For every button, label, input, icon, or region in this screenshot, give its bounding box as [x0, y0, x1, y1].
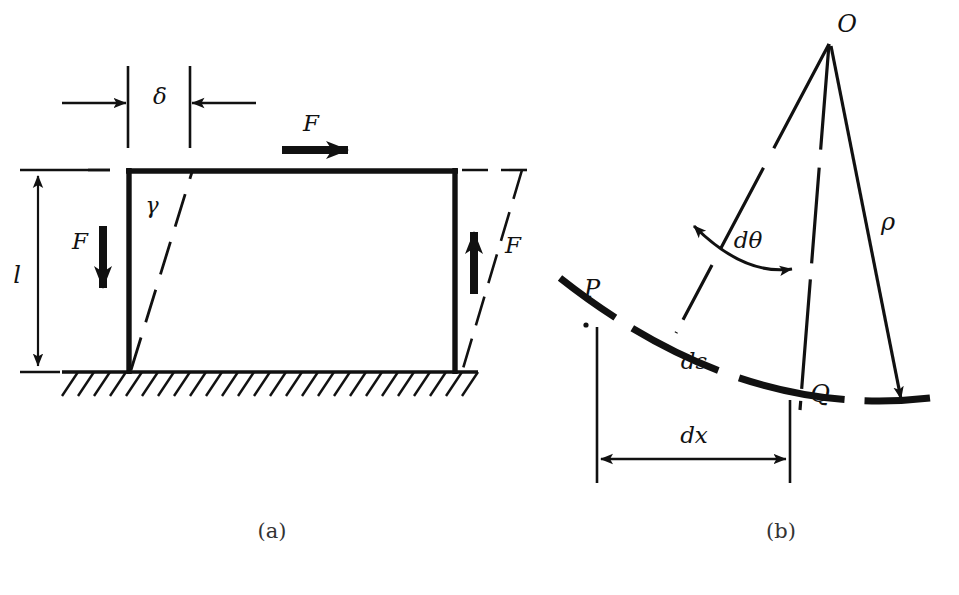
length-label: l [13, 261, 21, 289]
ground-hatching [62, 372, 478, 396]
panel-a-group: δ l γ F F F [13, 66, 530, 396]
caption-b: (b) [766, 519, 796, 543]
figure-container: δ l γ F F F [0, 0, 959, 595]
radius-line-left [676, 44, 829, 333]
gamma-label: γ [145, 193, 159, 218]
rho-label: ρ [880, 208, 895, 236]
ds-label: ds [681, 348, 708, 374]
point-q-label: Q [810, 380, 830, 408]
radius-line-middle [800, 44, 829, 410]
panel-b-group: ρ O dθ P Q ds dx [560, 10, 930, 483]
dtheta-label: dθ [734, 227, 763, 253]
caption-a: (a) [258, 519, 287, 543]
dx-label: dx [680, 422, 708, 448]
figure-canvas: δ l γ F F F [0, 0, 959, 595]
beam-curve [560, 278, 930, 401]
force-label-right: F [504, 232, 522, 258]
force-label-top: F [302, 110, 320, 136]
delta-label: δ [153, 83, 167, 109]
force-label-left: F [71, 228, 89, 254]
gamma-shear-line [131, 172, 192, 370]
point-p-marker [583, 322, 588, 327]
point-p-label: P [583, 275, 601, 303]
point-o-label: O [837, 10, 857, 38]
